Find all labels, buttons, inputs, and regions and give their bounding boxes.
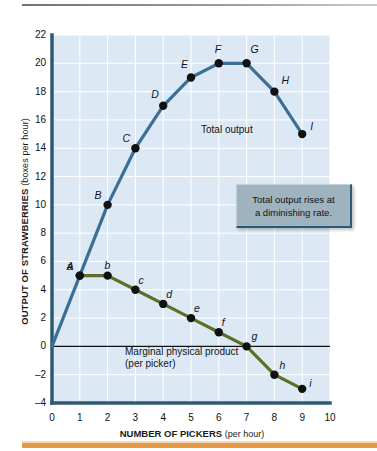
x-tick-9: 9 [292, 412, 312, 423]
x-axis-title: NUMBER OF PICKERS (per hour) [52, 428, 332, 439]
y-tick-4: 4 [20, 284, 46, 295]
y-tick-8: 8 [20, 227, 46, 238]
series-label-marginal-product: Marginal physical product (per picker) [125, 346, 238, 370]
x-tick-2: 2 [98, 412, 118, 423]
bottom-divider-rule [22, 443, 377, 448]
x-axis-title-unit: (per hour) [225, 429, 265, 439]
x-tick-8: 8 [264, 412, 284, 423]
point-label-G: G [251, 43, 259, 55]
x-axis-title-main: NUMBER OF PICKERS [120, 428, 222, 439]
point-label-g: g [252, 330, 258, 342]
point-label-E: E [181, 58, 188, 70]
y-tick-16: 16 [20, 114, 46, 125]
point-label-i: i [309, 377, 311, 389]
point-label-h: h [279, 359, 285, 371]
x-tick-5: 5 [181, 412, 201, 423]
point-label-B: B [95, 189, 102, 201]
x-tick-3: 3 [125, 412, 145, 423]
y-tick-14: 14 [20, 142, 46, 153]
series-label-marginal-product-line2: (per picker) [125, 358, 238, 370]
y-tick-18: 18 [20, 86, 46, 97]
point-label-C: C [122, 132, 130, 144]
point-label-d: d [166, 288, 172, 300]
point-label-c: c [138, 274, 143, 286]
x-tick-7: 7 [237, 412, 257, 423]
series-label-total-output: Total output [201, 124, 253, 135]
figure-chart-total-and-marginal-product: OUTPUT OF STRAWBERRIES (boxes per hour) … [0, 0, 377, 451]
annotation-callout-box: Total output rises at a diminishing rate… [236, 184, 352, 228]
point-label-f: f [222, 316, 225, 328]
y-tick-20: 20 [20, 57, 46, 68]
y-tick-0: 0 [20, 340, 46, 351]
y-tick-6: 6 [20, 255, 46, 266]
point-label-D: D [151, 88, 159, 100]
annotation-callout-text: Total output rises at a diminishing rate… [252, 193, 334, 219]
x-tick-0: 0 [42, 412, 62, 423]
annotation-line-1: Total output rises at [252, 193, 334, 206]
x-tick-1: 1 [70, 412, 90, 423]
y-tick-2: 2 [20, 312, 46, 323]
point-label-b: b [105, 259, 111, 271]
point-label-H: H [281, 74, 289, 86]
point-label-e: e [194, 302, 200, 314]
x-tick-6: 6 [209, 412, 229, 423]
point-label-F: F [215, 43, 221, 55]
point-label-I: I [310, 120, 313, 132]
point-label-a: a [67, 260, 73, 272]
y-tick-12: 12 [20, 171, 46, 182]
series-label-marginal-product-line1: Marginal physical product [125, 346, 238, 358]
y-tick-22: 22 [20, 29, 46, 40]
y-tick--2: –2 [20, 369, 46, 380]
x-tick-10: 10 [320, 412, 340, 423]
y-tick--4: –4 [20, 397, 46, 408]
annotation-line-2: a diminishing rate. [252, 206, 334, 219]
y-tick-10: 10 [20, 199, 46, 210]
x-tick-4: 4 [153, 412, 173, 423]
